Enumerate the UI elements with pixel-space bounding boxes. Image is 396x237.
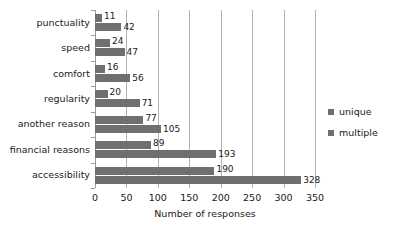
bar-value-label: 24 [112, 37, 123, 46]
bar-group: 1142 [95, 10, 315, 35]
plot-area: 11422447165620717710589193190328 [95, 10, 315, 188]
x-tick-label-350: 350 [306, 192, 324, 203]
bar-chart: punctualityspeedcomfortregularityanother… [0, 0, 396, 237]
bar-group: 2447 [95, 35, 315, 60]
category-tick [91, 188, 95, 189]
bar-value-label: 20 [110, 88, 121, 97]
category-label-regularity: regularity [0, 94, 90, 104]
bar-unique [95, 65, 105, 73]
legend-label: multiple [339, 128, 378, 138]
bar-value-label: 193 [218, 150, 235, 159]
x-tick-label-50: 50 [120, 192, 132, 203]
bar-unique [95, 39, 110, 47]
bar-group: 89193 [95, 137, 315, 162]
chart-legend: uniquemultiple [328, 104, 394, 146]
legend-swatch-icon [328, 109, 334, 115]
bar-value-label: 47 [127, 48, 138, 57]
legend-swatch-icon [328, 130, 334, 136]
bar-unique [95, 14, 102, 22]
x-tick-label-250: 250 [243, 192, 261, 203]
bar-value-label: 71 [142, 99, 153, 108]
legend-item-unique[interactable]: unique [328, 104, 394, 120]
x-tick-label-150: 150 [180, 192, 198, 203]
bar-multiple [95, 48, 125, 56]
x-tick-label-200: 200 [212, 192, 230, 203]
bar-unique [95, 141, 151, 149]
category-label-speed: speed [0, 43, 90, 53]
category-label-punctuality: punctuality [0, 18, 90, 28]
x-tick-label-100: 100 [149, 192, 167, 203]
legend-label: unique [339, 107, 372, 117]
bar-group: 190328 [95, 163, 315, 188]
bar-group: 77105 [95, 112, 315, 137]
x-axis-title: Number of responses [95, 208, 315, 219]
bar-multiple [95, 74, 130, 82]
bar-value-label: 11 [104, 12, 115, 21]
bar-value-label: 16 [107, 63, 118, 72]
bar-value-label: 328 [303, 176, 320, 185]
bar-value-label: 89 [153, 139, 164, 148]
category-axis-labels: punctualityspeedcomfortregularityanother… [0, 10, 90, 188]
legend-item-multiple[interactable]: multiple [328, 125, 394, 141]
category-label-accessibility: accessibility [0, 170, 90, 180]
bar-multiple [95, 125, 161, 133]
x-tick-label-300: 300 [274, 192, 292, 203]
bar-value-label: 56 [132, 74, 143, 83]
bar-value-label: 77 [145, 114, 156, 123]
bar-value-label: 190 [216, 165, 233, 174]
bar-group: 2071 [95, 86, 315, 111]
bar-value-label: 105 [163, 125, 180, 134]
x-tick-label-0: 0 [92, 192, 98, 203]
bar-group: 1656 [95, 61, 315, 86]
bar-rows: 11422447165620717710589193190328 [95, 10, 315, 188]
bar-multiple [95, 99, 140, 107]
gridline-350 [315, 10, 316, 188]
category-label-comfort: comfort [0, 69, 90, 79]
bar-unique [95, 167, 214, 175]
bar-multiple [95, 150, 216, 158]
category-label-another-reason: another reason [0, 119, 90, 129]
value-axis-tick-labels: 050100150200250300350 [95, 192, 315, 206]
bar-unique [95, 90, 108, 98]
bar-multiple [95, 23, 121, 31]
bar-value-label: 42 [123, 23, 134, 32]
bar-unique [95, 116, 143, 124]
bar-multiple [95, 176, 301, 184]
category-label-financial-reasons: financial reasons [0, 145, 90, 155]
